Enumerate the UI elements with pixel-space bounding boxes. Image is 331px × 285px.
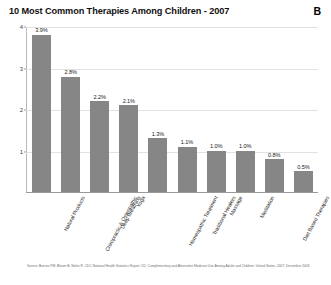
bar-value-label: 1.1%	[181, 139, 193, 145]
bar-slot: 1.3%	[143, 27, 172, 192]
x-label-slot: Yoga	[115, 194, 144, 260]
bar[interactable]	[294, 171, 313, 192]
y-tick-label: 2	[20, 107, 23, 113]
bar[interactable]	[148, 138, 167, 192]
bar[interactable]	[207, 151, 226, 192]
bar-value-label: 2.8%	[64, 69, 76, 75]
panel-letter: B	[313, 5, 321, 17]
x-label-slot: Traditional Healers	[173, 194, 202, 260]
bar[interactable]	[90, 101, 109, 192]
x-label-slot: Meditation	[231, 194, 260, 260]
bar-value-label: 1.0%	[210, 143, 222, 149]
bar-value-label: 1.0%	[239, 143, 251, 149]
y-tick-label: 1	[20, 149, 23, 155]
source-note: Source: Barnes PM, Bloom B, Nahin R. CDC…	[27, 264, 325, 269]
plot-area: 1234 3.9%2.8%2.2%2.1%1.3%1.1%1.0%1.0%0.8…	[26, 27, 318, 193]
bar-slot: 2.1%	[114, 27, 143, 192]
bar-value-label: 0.5%	[297, 164, 309, 170]
bar[interactable]	[265, 159, 284, 192]
bar-value-label: 0.8%	[268, 152, 280, 158]
y-tick-label: 3	[20, 66, 23, 72]
bar-slot: 2.8%	[56, 27, 85, 192]
bar[interactable]	[178, 147, 197, 192]
bar-value-label: 1.3%	[152, 131, 164, 137]
x-label-slot: Diet Based Therapies	[261, 194, 290, 260]
bar-slot: 1.0%	[231, 27, 260, 192]
x-label-slot: Deep Breathing	[85, 194, 114, 260]
y-tick-label: 4	[20, 24, 23, 30]
chart-title: 10 Most Common Therapies Among Children …	[9, 6, 229, 16]
x-label-slot: Natural Products	[27, 194, 56, 260]
bar-slot: 2.2%	[85, 27, 114, 192]
bar[interactable]	[32, 35, 51, 193]
bar-slot: 1.1%	[172, 27, 201, 192]
bar-slot: 0.8%	[260, 27, 289, 192]
y-tick-mark	[24, 151, 26, 152]
bar-series: 3.9%2.8%2.2%2.1%1.3%1.1%1.0%1.0%0.8%0.5%	[27, 27, 318, 192]
x-label-slot: Progressive Relaxation	[290, 194, 319, 260]
x-axis-labels: Natural ProductsChiropractic & Osteopath…	[27, 194, 319, 260]
chart-figure: 10 Most Common Therapies Among Children …	[0, 0, 331, 285]
y-tick-mark	[24, 68, 26, 69]
bar-slot: 0.5%	[289, 27, 318, 192]
bar-slot: 3.9%	[27, 27, 56, 192]
bar-value-label: 2.2%	[94, 94, 106, 100]
bar-value-label: 3.9%	[35, 27, 47, 33]
bar-slot: 1.0%	[202, 27, 231, 192]
x-label-slot: Homeopathic Treatment	[144, 194, 173, 260]
bar-value-label: 2.1%	[123, 98, 135, 104]
y-tick-mark	[24, 110, 26, 111]
y-tick-mark	[24, 27, 26, 28]
x-label-slot: Massage	[202, 194, 231, 260]
bar[interactable]	[61, 77, 80, 193]
bar[interactable]	[119, 105, 138, 192]
x-label-slot: Chiropractic & Osteopathic	[56, 194, 85, 260]
bar[interactable]	[236, 151, 255, 192]
x-axis-line	[26, 192, 318, 193]
